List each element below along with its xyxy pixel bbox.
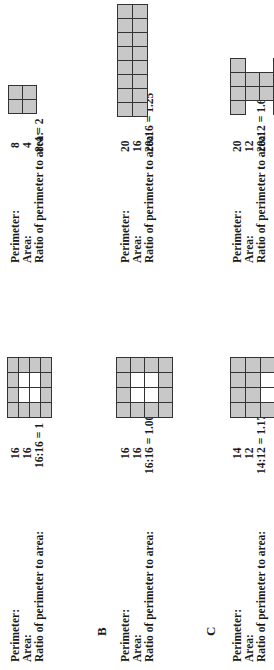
perimeter-value: 16 — [9, 448, 22, 460]
ratio-label: Ratio of perimeter to area: — [143, 531, 156, 662]
perimeter-value: 20 — [231, 141, 244, 153]
row-a: Perimeter: Area: Ratio of perimeter to a… — [0, 0, 90, 670]
i-beam-stem — [245, 72, 274, 101]
perimeter-label: Perimeter: — [119, 210, 132, 263]
perimeter-value: 20 — [119, 141, 132, 153]
ratio-label: Ratio of perimeter to area: — [33, 531, 46, 662]
perimeter-value: 16 — [119, 448, 132, 460]
rotated-page: Perimeter: Area: Ratio of perimeter to a… — [0, 0, 274, 670]
ratio-value: 14:12 = 1.17 — [255, 415, 268, 474]
i-beam-bottom — [273, 58, 274, 115]
shape-with-hole — [230, 357, 274, 418]
perimeter-value: 14 — [231, 448, 244, 460]
perimeter-label: Perimeter: — [231, 609, 244, 662]
shape-4x4-hole — [116, 357, 173, 418]
perimeter-label: Perimeter: — [231, 210, 244, 263]
ratio-value: 8:4 = 2 — [33, 119, 46, 152]
shape-4x4-hole — [7, 357, 52, 418]
area-value: 4 — [21, 142, 34, 148]
area-value: 12 — [243, 141, 256, 153]
perimeter-label: Perimeter: — [9, 609, 22, 662]
ratio-value: 16:16 = 1.00 — [143, 415, 156, 474]
perimeter-label: Perimeter: — [9, 210, 22, 263]
area-value: 12 — [243, 448, 256, 460]
ratio-label: Ratio of perimeter to area: — [255, 531, 268, 662]
ratio-value: 16:16 = 1 — [33, 423, 46, 468]
area-value: 16 — [131, 141, 144, 153]
shape-2x8 — [117, 4, 148, 117]
area-value: 16 — [21, 448, 34, 460]
row-label-c: C — [205, 627, 218, 636]
row-label-b: B — [96, 627, 109, 636]
area-label: Area: — [243, 235, 256, 263]
perimeter-label: Perimeter: — [119, 609, 132, 662]
area-value: 16 — [131, 448, 144, 460]
perimeter-value: 8 — [9, 142, 22, 148]
area-label: Area: — [131, 634, 144, 662]
area-label: Area: — [21, 634, 34, 662]
area-label: Area: — [243, 634, 256, 662]
area-label: Area: — [21, 235, 34, 263]
row-c: C Perimeter: Area: Ratio of perimeter to… — [200, 0, 274, 670]
area-label: Area: — [131, 235, 144, 263]
i-beam-top — [230, 58, 246, 115]
shape-2x2 — [8, 85, 37, 114]
row-b: B Perimeter: Area: Ratio of perimeter to… — [90, 0, 200, 670]
shape-i-beam — [230, 55, 274, 115]
